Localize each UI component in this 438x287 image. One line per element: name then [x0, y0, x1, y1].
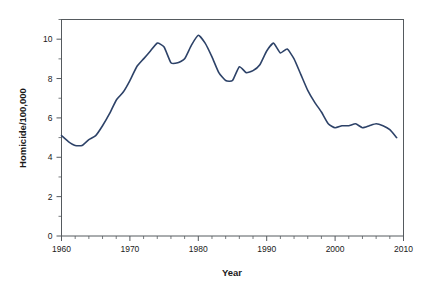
plot-frame — [62, 20, 404, 237]
y-tick-label-6: 6 — [48, 113, 53, 123]
x-tick-label-1990: 1990 — [257, 244, 276, 254]
x-tick-label-2010: 2010 — [394, 244, 413, 254]
x-tick-label-1960: 1960 — [52, 244, 71, 254]
y-axis-ticks — [57, 20, 62, 237]
homicide-rate-line — [62, 35, 397, 146]
x-tick-label-1980: 1980 — [189, 244, 208, 254]
y-tick-label-10: 10 — [43, 34, 53, 44]
x-axis-ticks — [62, 236, 404, 241]
line-chart: 196019701980199020002010 0246810 Year Ho… — [0, 0, 438, 287]
x-axis-title: Year — [222, 267, 242, 278]
y-tick-label-0: 0 — [48, 231, 53, 241]
y-tick-label-4: 4 — [48, 152, 53, 162]
x-tick-label-2000: 2000 — [326, 244, 345, 254]
chart-figure: 196019701980199020002010 0246810 Year Ho… — [0, 0, 438, 287]
y-axis-title: Homicide/100,000 — [17, 88, 28, 168]
y-tick-label-2: 2 — [48, 192, 53, 202]
y-tick-label-8: 8 — [48, 74, 53, 84]
x-tick-label-1970: 1970 — [120, 244, 139, 254]
x-axis-tick-labels: 196019701980199020002010 — [52, 244, 413, 254]
y-axis-tick-labels: 0246810 — [43, 34, 53, 241]
